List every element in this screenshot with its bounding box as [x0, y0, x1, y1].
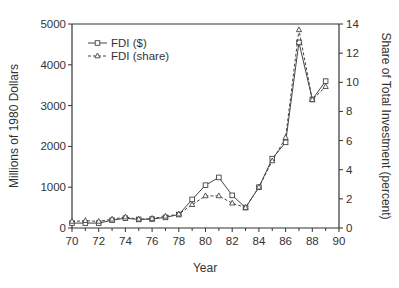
- triangle-marker: [83, 218, 88, 223]
- triangle-marker: [203, 193, 208, 198]
- legend: FDI ($)FDI (share): [88, 37, 169, 62]
- y2-tick-label: 14: [346, 18, 359, 30]
- x-tick-label: 82: [226, 235, 239, 247]
- series-fdi-share: [69, 27, 328, 223]
- legend-square-marker: [95, 41, 100, 46]
- legend-triangle-marker: [95, 53, 100, 58]
- series-layer: [69, 27, 328, 226]
- triangle-marker: [216, 193, 221, 198]
- y2-tick-label: 10: [346, 76, 359, 88]
- triangle-marker: [296, 27, 301, 32]
- square-marker: [283, 140, 288, 145]
- y2-tick-label: 4: [346, 164, 353, 176]
- y-tick-label: 0: [60, 222, 66, 234]
- y2-tick-label: 0: [346, 222, 352, 234]
- x-tick-label: 72: [92, 235, 105, 247]
- y-tick-label: 3000: [40, 100, 66, 112]
- y2-axis-title: Share of Total Investment (percent): [379, 32, 393, 219]
- y-tick-label: 1000: [40, 181, 66, 193]
- y-axis-title: Millions of 1980 Dollars: [7, 64, 21, 188]
- square-marker: [217, 175, 222, 180]
- x-tick-label: 90: [333, 235, 346, 247]
- y-tick-label: 2000: [40, 140, 66, 152]
- x-tick-label: 78: [172, 235, 185, 247]
- y2-tick-label: 12: [346, 47, 359, 59]
- y2-tick-label: 8: [346, 105, 352, 117]
- x-tick-label: 84: [253, 235, 266, 247]
- x-tick-label: 86: [279, 235, 292, 247]
- x-tick-label: 76: [146, 235, 159, 247]
- y2-tick-label: 2: [346, 193, 352, 205]
- x-tick-label: 74: [119, 235, 132, 247]
- fdi-chart: 7072747678808284868890010002000300040005…: [0, 0, 399, 288]
- axes: 7072747678808284868890010002000300040005…: [40, 18, 359, 247]
- x-tick-label: 70: [66, 235, 79, 247]
- square-marker: [230, 193, 235, 198]
- legend-label: FDI ($): [111, 37, 147, 49]
- x-tick-label: 88: [306, 235, 319, 247]
- x-axis-title: Year: [193, 261, 217, 275]
- y-tick-label: 5000: [40, 18, 66, 30]
- y2-tick-label: 6: [346, 135, 352, 147]
- y-tick-label: 4000: [40, 59, 66, 71]
- legend-label: FDI (share): [111, 50, 169, 62]
- series-line: [72, 42, 326, 223]
- triangle-marker: [283, 135, 288, 140]
- x-tick-label: 80: [199, 235, 212, 247]
- series-fdi-dollars: [70, 40, 328, 225]
- square-marker: [203, 183, 208, 188]
